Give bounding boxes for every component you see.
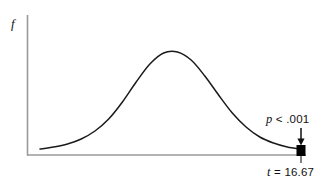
t-value-text: = 16.67 — [271, 166, 314, 178]
p-value-text: < .001 — [272, 113, 309, 125]
annotation-arrow-icon — [297, 128, 304, 146]
y-axis-label: f — [11, 17, 15, 30]
critical-region-marker — [297, 145, 306, 156]
p-value-annotation: p < .001 — [266, 113, 309, 126]
t-distribution-figure: f p < .001 t = 16.67 — [0, 0, 336, 186]
density-curve — [40, 51, 301, 149]
t-value-annotation: t = 16.67 — [267, 166, 314, 179]
plot-canvas — [0, 0, 336, 186]
